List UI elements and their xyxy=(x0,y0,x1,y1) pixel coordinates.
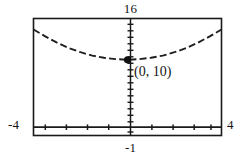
vertex-point-marker xyxy=(124,56,131,63)
vertex-coordinate-label: (0, 10) xyxy=(134,65,171,79)
plot-canvas xyxy=(0,0,245,160)
y-min-label: -1 xyxy=(122,141,139,154)
graph-figure: 16 -1 -4 4 (0, 10) xyxy=(0,0,245,160)
x-min-label: -4 xyxy=(8,118,19,131)
y-max-label: 16 xyxy=(122,2,139,15)
x-max-label: 4 xyxy=(227,118,234,131)
